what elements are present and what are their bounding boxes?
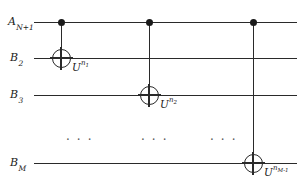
ellipsis-3: · · · bbox=[210, 134, 237, 146]
gate-3-target-xor[interactable] bbox=[244, 154, 263, 173]
gate-2-target-xor[interactable] bbox=[140, 86, 159, 105]
wire-label-b2-base: B bbox=[10, 51, 18, 64]
wire-label-a-subscript: N+1 bbox=[16, 23, 34, 32]
ellipsis-1: · · · bbox=[66, 134, 93, 146]
wire-b3-line bbox=[34, 95, 297, 96]
gate-1-label-sup-subscript: 1 bbox=[86, 62, 90, 68]
gate-2-control-dot[interactable] bbox=[146, 19, 153, 26]
gate-3-label-sup-subscript: M-1 bbox=[278, 167, 289, 173]
gate-1-control-dot[interactable] bbox=[58, 19, 65, 26]
gate-1-label-superscript: n1 bbox=[81, 59, 89, 67]
gate-3-label: UnM-1 bbox=[264, 166, 288, 177]
gate-2-label: Un2 bbox=[160, 98, 177, 109]
gate-1-target-xor[interactable] bbox=[52, 49, 71, 68]
gate-3-label-superscript: nM-1 bbox=[273, 164, 289, 172]
gate-3-control-line bbox=[253, 22, 254, 163]
gate-1-label-base: U bbox=[72, 61, 81, 73]
gate-1-label: Un1 bbox=[72, 61, 89, 72]
wire-label-b3-subscript: 3 bbox=[18, 96, 23, 105]
wire-label-b3-base: B bbox=[10, 88, 18, 101]
wire-label-a: AN+1 bbox=[8, 16, 34, 30]
wire-label-b2: B2 bbox=[10, 52, 23, 66]
wire-label-bm-base: B bbox=[10, 156, 18, 169]
gate-2-label-superscript: n2 bbox=[169, 96, 177, 104]
wire-a-line bbox=[34, 22, 297, 23]
ellipsis-2: · · · bbox=[141, 134, 168, 146]
gate-3-control-dot[interactable] bbox=[250, 19, 257, 26]
wire-b2-line bbox=[34, 58, 297, 59]
gate-2-label-sup-subscript: 2 bbox=[174, 99, 178, 105]
gate-3-label-base: U bbox=[264, 166, 273, 178]
wire-label-b3: B3 bbox=[10, 89, 23, 103]
wire-label-bm-subscript: M bbox=[18, 164, 26, 173]
wire-label-bm: BM bbox=[10, 157, 26, 171]
gate-2-label-base: U bbox=[160, 98, 169, 110]
wire-label-a-base: A bbox=[8, 15, 16, 28]
quantum-circuit-diagram: AN+1 B2 B3 BM Un1 Un2 UnM-1 · · · · · · … bbox=[0, 0, 301, 193]
wire-label-b2-subscript: 2 bbox=[18, 59, 23, 68]
